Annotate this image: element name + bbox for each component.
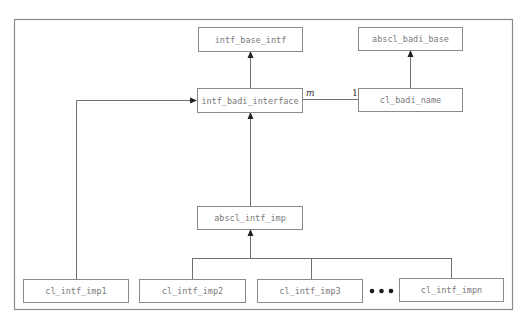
- node-label: intf_badi_interface: [201, 96, 298, 106]
- ellipsis-dots-icon: [370, 289, 394, 294]
- node-label: abscl_intf_imp: [214, 213, 286, 223]
- node-abscl-badi-base[interactable]: abscl_badi_base: [359, 28, 463, 51]
- node-label: cl_intf_imp2: [162, 286, 223, 296]
- node-label: cl_intf_imp3: [279, 286, 340, 296]
- node-label: cl_intf_imp1: [45, 286, 106, 296]
- node-cl-intf-imp3[interactable]: cl_intf_imp3: [258, 280, 363, 303]
- node-cl-intf-imp2[interactable]: cl_intf_imp2: [140, 280, 246, 303]
- edges: [77, 50, 453, 279]
- node-label: cl_intf_impn: [421, 285, 482, 295]
- diagram-frame: [15, 20, 513, 310]
- node-intf-base-intf[interactable]: intf_base_intf: [199, 28, 303, 52]
- node-cl-intf-imp1[interactable]: cl_intf_imp1: [24, 280, 129, 303]
- arrowhead-icon: [248, 51, 254, 58]
- node-abscl-intf-imp[interactable]: abscl_intf_imp: [198, 207, 303, 230]
- node-cl-intf-impn[interactable]: cl_intf_impn: [400, 279, 504, 302]
- arrowhead-icon: [248, 112, 254, 119]
- node-label: abscl_badi_base: [372, 34, 449, 44]
- node-label: cl_badi_name: [380, 95, 441, 105]
- edge-imp1-to-interface: [77, 101, 192, 280]
- node-intf-badi-interface[interactable]: intf_badi_interface: [198, 89, 303, 113]
- arrowhead-icon: [190, 98, 197, 104]
- arrowhead-icon: [248, 229, 254, 236]
- multiplicity-1: 1: [352, 88, 358, 98]
- arrowhead-icon: [408, 50, 414, 57]
- multiplicity-m: m: [306, 88, 315, 98]
- node-label: intf_base_intf: [215, 35, 287, 45]
- node-cl-badi-name[interactable]: cl_badi_name: [359, 89, 463, 112]
